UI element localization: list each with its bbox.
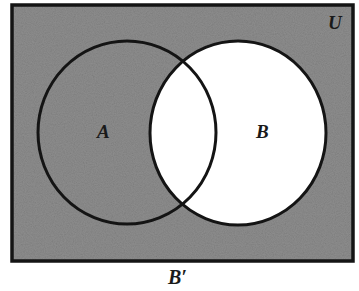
venn-diagram: A B U B′ — [0, 0, 359, 291]
set-a-label: A — [96, 121, 110, 142]
set-b-label: B — [255, 121, 269, 142]
universe-label: U — [328, 12, 343, 33]
complement-caption: B′ — [167, 266, 187, 288]
